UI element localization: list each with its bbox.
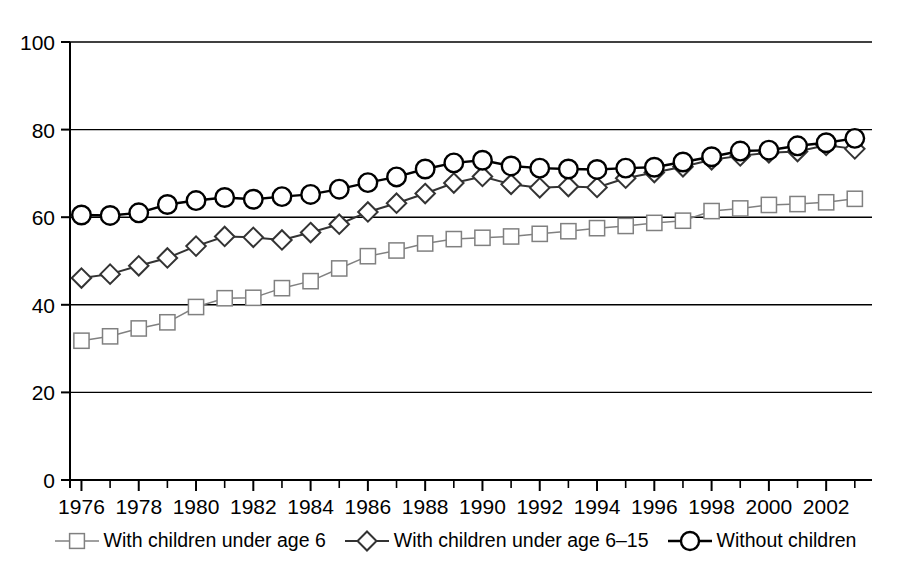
data-point-marker: [387, 168, 406, 187]
data-point-marker: [559, 160, 578, 179]
data-point-marker: [761, 197, 776, 212]
data-point-marker: [589, 221, 604, 236]
data-point-marker: [587, 178, 606, 197]
data-point-marker: [301, 185, 320, 204]
gridlines: [70, 42, 872, 480]
data-point-marker: [389, 243, 404, 258]
data-point-marker: [72, 206, 91, 225]
data-point-marker: [244, 190, 263, 209]
data-point-marker: [416, 160, 435, 179]
x-tick-label: 1992: [516, 495, 563, 518]
data-point-marker: [504, 229, 519, 244]
data-point-marker: [187, 191, 206, 210]
x-tick-label: 1984: [287, 495, 334, 518]
data-point-marker: [129, 204, 148, 223]
chart-legend: With children under age 6 With children …: [0, 519, 910, 563]
data-point-marker: [359, 173, 378, 192]
data-point-marker: [473, 151, 492, 170]
x-axis-tick-labels: 1976197819801982198419861988199019921994…: [58, 495, 849, 518]
square-marker-icon: [54, 529, 100, 553]
y-tick-label: 100: [20, 31, 55, 54]
data-point-marker: [847, 191, 862, 206]
diamond-marker-icon: [344, 529, 390, 553]
data-point-marker: [846, 129, 865, 148]
legend-item-label: Without children: [717, 531, 857, 551]
data-point-marker: [790, 196, 805, 211]
x-tick-label: 1994: [574, 495, 621, 518]
data-point-marker: [332, 261, 347, 276]
data-point-marker: [530, 178, 549, 197]
data-point-marker: [215, 227, 234, 246]
data-point-marker: [733, 201, 748, 216]
circle-marker-icon: [667, 529, 713, 553]
data-point-marker: [273, 187, 292, 206]
data-point-marker: [501, 175, 520, 194]
data-point-marker: [160, 315, 175, 330]
data-point-marker: [186, 236, 205, 255]
y-axis-tick-labels: 020406080100: [20, 31, 55, 492]
x-tick-label: 1988: [402, 495, 449, 518]
legend-item-label: With children under age 6–15: [394, 531, 649, 551]
data-point-marker: [303, 274, 318, 289]
chart-container: 020406080100 197619781980198219841986198…: [0, 0, 910, 582]
line-chart-plot: 020406080100 197619781980198219841986198…: [0, 0, 910, 582]
legend-item-with-children-under-6-15[interactable]: With children under age 6–15: [344, 529, 649, 553]
data-point-marker: [103, 329, 118, 344]
data-point-marker: [72, 268, 91, 287]
data-point-marker: [301, 223, 320, 242]
data-point-marker: [131, 321, 146, 336]
data-point-marker: [217, 291, 232, 306]
data-point-marker: [215, 188, 234, 207]
data-point-marker: [387, 193, 406, 212]
x-tick-label: 1980: [173, 495, 220, 518]
data-point-marker: [129, 256, 148, 275]
data-point-marker: [788, 137, 807, 156]
data-point-marker: [418, 236, 433, 251]
x-tick-label: 1998: [688, 495, 735, 518]
y-tick-label: 60: [32, 206, 55, 229]
y-tick-label: 20: [32, 381, 55, 404]
data-point-marker: [188, 299, 203, 314]
data-point-marker: [475, 230, 490, 245]
x-tick-label: 1982: [230, 495, 277, 518]
data-point-marker: [588, 160, 607, 179]
data-point-marker: [158, 248, 177, 267]
data-point-marker: [244, 228, 263, 247]
legend-item-with-children-under-6[interactable]: With children under age 6: [54, 529, 326, 553]
series-line: [81, 199, 854, 341]
data-point-marker: [444, 173, 463, 192]
data-point-marker: [360, 249, 375, 264]
data-point-marker: [618, 218, 633, 233]
data-point-marker: [731, 142, 750, 161]
data-point-marker: [330, 180, 349, 199]
x-tick-label: 1996: [631, 495, 678, 518]
data-point-marker: [616, 159, 635, 178]
data-point-marker: [561, 224, 576, 239]
data-point-marker: [817, 133, 836, 152]
data-point-marker: [158, 195, 177, 214]
data-point-marker: [760, 141, 779, 160]
x-tick-label: 1978: [115, 495, 162, 518]
data-point-marker: [502, 157, 521, 176]
data-point-marker: [446, 232, 461, 247]
x-tick-label: 1976: [58, 495, 105, 518]
data-point-marker: [415, 184, 434, 203]
data-point-marker: [674, 153, 693, 172]
x-tick-label: 2000: [746, 495, 793, 518]
series-square: [74, 191, 863, 348]
x-tick-label: 1986: [345, 495, 392, 518]
data-point-marker: [819, 195, 834, 210]
y-tick-label: 0: [43, 469, 55, 492]
data-point-marker: [704, 203, 719, 218]
x-axis-ticks: [81, 480, 854, 491]
data-point-marker: [702, 147, 721, 166]
data-point-marker: [675, 213, 690, 228]
x-tick-label: 1990: [459, 495, 506, 518]
data-point-marker: [101, 206, 120, 225]
x-tick-label: 2002: [803, 495, 850, 518]
legend-item-without-children[interactable]: Without children: [667, 529, 857, 553]
data-point-marker: [445, 154, 464, 173]
data-point-marker: [358, 202, 377, 221]
data-point-marker: [645, 158, 664, 177]
data-series: [72, 129, 865, 348]
